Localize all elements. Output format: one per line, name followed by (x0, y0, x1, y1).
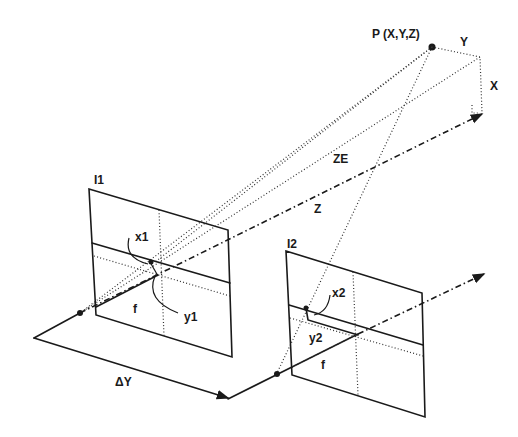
label-z: Z (314, 202, 321, 216)
optical-axis-1 (80, 114, 482, 313)
ray-ze (155, 47, 432, 262)
label-f2: f (321, 358, 326, 372)
label-image-1: I1 (94, 173, 104, 187)
ray-p-to-i1-a (80, 47, 432, 313)
label-x2: x2 (332, 286, 346, 300)
p-y-offset-line (432, 47, 482, 113)
label-x-axis: X (490, 79, 498, 93)
stereo-diagram: P (X,Y,Z) Y X ZE Z I1 I2 x1 y1 x2 y2 f f… (0, 0, 518, 437)
label-y-axis: Y (460, 35, 468, 49)
image-plane-1 (89, 189, 232, 357)
baseline (34, 310, 292, 399)
label-image-2: I2 (287, 237, 297, 251)
label-x1: x1 (135, 230, 149, 244)
image-plane-2 (286, 251, 425, 417)
right-angle-mark (472, 105, 480, 113)
label-f1: f (133, 302, 138, 316)
label-y2: y2 (309, 331, 323, 345)
label-point-p: P (X,Y,Z) (372, 27, 420, 41)
label-baseline: ΔY (115, 375, 132, 389)
label-y1: y1 (184, 310, 198, 324)
label-ze: ZE (333, 152, 348, 166)
ray-corner-to-i1 (80, 57, 480, 313)
optical-axis-2 (358, 274, 484, 334)
